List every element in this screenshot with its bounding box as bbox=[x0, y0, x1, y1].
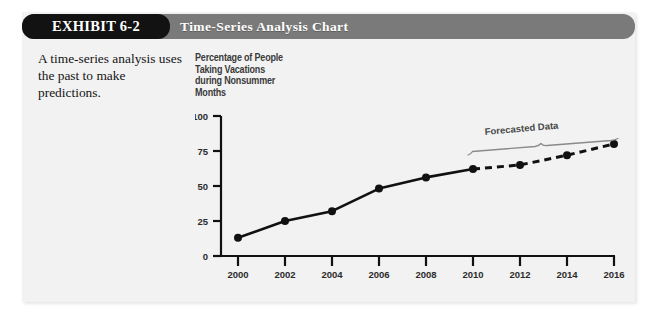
forecast-brace bbox=[468, 139, 618, 156]
data-point bbox=[516, 161, 524, 169]
y-tick-label: 25 bbox=[197, 216, 208, 227]
y-tick-label: 50 bbox=[197, 181, 208, 192]
axis-lines bbox=[221, 116, 615, 256]
data-point bbox=[422, 173, 430, 181]
x-tick-label: 2010 bbox=[462, 269, 483, 280]
exhibit-title: Time-Series Analysis Chart bbox=[180, 14, 348, 39]
x-tick-label: 2008 bbox=[415, 269, 436, 280]
x-tick-label: 2006 bbox=[368, 269, 389, 280]
x-axis-ticks bbox=[238, 256, 614, 266]
data-point bbox=[328, 207, 336, 215]
data-point bbox=[234, 234, 242, 242]
x-tick-label: 2014 bbox=[556, 269, 578, 280]
y-tick-label: 75 bbox=[197, 146, 208, 157]
forecast-annotation-label: Forecasted Data bbox=[484, 120, 559, 137]
series-forecasted-data bbox=[473, 140, 618, 169]
y-axis-ticks bbox=[213, 116, 221, 256]
chart-axes bbox=[213, 116, 615, 266]
data-point bbox=[610, 140, 618, 148]
x-tick-label: 2016 bbox=[603, 269, 624, 280]
exhibit-caption: A time-series analysis uses the past to … bbox=[38, 50, 188, 101]
data-point bbox=[281, 217, 289, 225]
forecast-data-line bbox=[473, 144, 614, 169]
y-tick-label: 100 bbox=[195, 111, 208, 122]
actual-data-line bbox=[238, 169, 473, 238]
x-tick-label: 2004 bbox=[321, 269, 343, 280]
x-tick-label: 2012 bbox=[509, 269, 530, 280]
y-tick-label: 0 bbox=[203, 251, 208, 262]
y-axis-tick-labels: 0 25 50 75 100 bbox=[195, 111, 209, 262]
chart-plot-area: 0 25 50 75 100 2000 2002 2004 2006 2008 … bbox=[195, 50, 625, 285]
brace-path bbox=[468, 139, 618, 156]
exhibit-number-label: EXHIBIT 6-2 bbox=[22, 14, 170, 39]
series-actual-data bbox=[234, 165, 477, 242]
x-axis-tick-labels: 2000 2002 2004 2006 2008 2010 2012 2014 … bbox=[227, 269, 624, 280]
time-series-chart: Percentage of People Taking Vacations du… bbox=[195, 50, 625, 285]
exhibit-figure: EXHIBIT 6-2 Time-Series Analysis Chart A… bbox=[0, 0, 659, 322]
data-point bbox=[375, 185, 383, 193]
x-tick-label: 2002 bbox=[274, 269, 295, 280]
data-point bbox=[563, 151, 571, 159]
x-tick-label: 2000 bbox=[227, 269, 248, 280]
